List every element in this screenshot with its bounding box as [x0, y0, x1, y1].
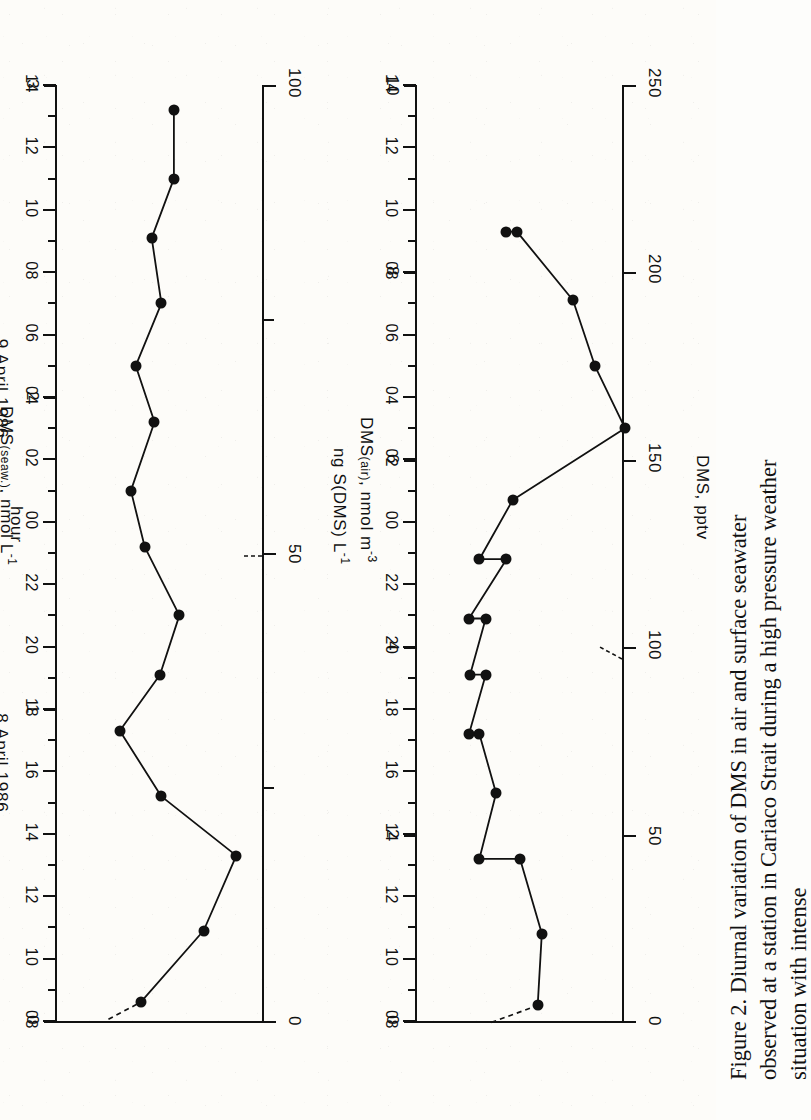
hour-tick-27 — [48, 427, 56, 429]
hour-axis-title: hour — [6, 506, 26, 542]
hour-tick-19 — [408, 677, 416, 679]
hour-tick-37 — [408, 115, 416, 117]
hour-tick-18 — [403, 708, 416, 710]
day-label-1: 9 April 1986 — [0, 339, 11, 438]
hour-label-08-0: 08 — [382, 1010, 400, 1029]
hour-axis-seawater: 081012141618202200020406081012148 April … — [0, 0, 356, 1120]
hour-tick-25 — [48, 490, 56, 492]
figure-number: Figure 2. — [726, 999, 751, 1080]
hour-label-20-6: 20 — [22, 636, 40, 655]
hour-tick-33 — [408, 240, 416, 242]
hour-label-20-6: 20 — [382, 636, 400, 655]
hour-label-08-12: 08 — [382, 261, 400, 280]
hour-tick-14 — [403, 833, 416, 835]
hour-tick-33 — [48, 240, 56, 242]
hour-tick-8 — [43, 1020, 56, 1022]
hour-tick-38 — [43, 84, 56, 86]
hour-label-00-8: 00 — [382, 511, 400, 530]
hour-tick-28 — [43, 396, 56, 398]
hour-tick-29 — [408, 365, 416, 367]
hour-label-10-13: 10 — [22, 199, 40, 218]
hour-tick-35 — [408, 178, 416, 180]
hour-tick-38 — [403, 84, 416, 86]
hour-tick-10 — [43, 958, 56, 960]
hour-tick-25 — [408, 490, 416, 492]
hour-tick-29 — [48, 365, 56, 367]
hour-tick-13 — [408, 864, 416, 866]
hour-label-14-15: 14 — [22, 74, 40, 93]
hour-tick-23 — [48, 552, 56, 554]
hour-label-14-15: 14 — [382, 74, 400, 93]
hour-tick-30 — [43, 334, 56, 336]
hour-tick-9 — [48, 989, 56, 991]
hour-tick-24 — [43, 521, 56, 523]
hour-tick-35 — [48, 178, 56, 180]
hour-axis-air: 08101214161820220002040608101214 — [356, 0, 716, 1120]
hour-label-16-4: 16 — [382, 760, 400, 779]
hour-tick-34 — [403, 209, 416, 211]
hour-tick-26 — [403, 458, 416, 460]
hour-tick-32 — [403, 271, 416, 273]
hour-label-10-1: 10 — [22, 948, 40, 967]
hour-label-18-5: 18 — [22, 698, 40, 717]
figure-caption-container: Figure 2. Diurnal variation of DMS in ai… — [716, 70, 806, 1120]
hour-tick-11 — [48, 926, 56, 928]
hour-tick-36 — [403, 146, 416, 148]
hour-label-22-7: 22 — [382, 573, 400, 592]
hour-tick-16 — [43, 770, 56, 772]
hour-tick-21 — [408, 614, 416, 616]
hour-tick-22 — [43, 583, 56, 585]
hour-tick-15 — [48, 802, 56, 804]
hour-tick-20 — [43, 646, 56, 648]
hour-tick-24 — [403, 521, 416, 523]
hour-label-10-1: 10 — [382, 948, 400, 967]
hour-label-08-0: 08 — [22, 1010, 40, 1029]
hour-tick-18 — [43, 708, 56, 710]
hour-tick-9 — [408, 989, 416, 991]
hour-tick-16 — [403, 770, 416, 772]
hour-tick-34 — [43, 209, 56, 211]
hour-label-02-9: 02 — [382, 448, 400, 467]
hour-tick-11 — [408, 926, 416, 928]
hour-tick-32 — [43, 271, 56, 273]
hour-tick-14 — [43, 833, 56, 835]
day-label-0: 8 April 1986 — [0, 713, 11, 812]
hour-label-10-13: 10 — [382, 199, 400, 218]
figure-caption-text: Diurnal variation of DMS in air and surf… — [726, 460, 811, 1080]
hour-tick-37 — [48, 115, 56, 117]
hour-tick-8 — [403, 1020, 416, 1022]
hour-tick-23 — [408, 552, 416, 554]
hour-label-06-11: 06 — [22, 324, 40, 343]
hour-tick-36 — [43, 146, 56, 148]
hour-label-12-2: 12 — [382, 885, 400, 904]
hour-tick-27 — [408, 427, 416, 429]
hour-label-12-14: 12 — [382, 136, 400, 155]
hour-tick-15 — [408, 802, 416, 804]
hour-tick-10 — [403, 958, 416, 960]
figure-caption: Figure 2. Diurnal variation of DMS in ai… — [724, 440, 811, 1080]
hour-tick-12 — [403, 895, 416, 897]
hour-label-04-10: 04 — [382, 386, 400, 405]
hour-tick-28 — [403, 396, 416, 398]
hour-tick-19 — [48, 677, 56, 679]
hour-label-16-4: 16 — [22, 760, 40, 779]
hour-tick-17 — [408, 739, 416, 741]
hour-label-04-10: 04 — [22, 386, 40, 405]
hour-label-02-9: 02 — [22, 448, 40, 467]
hour-label-12-14: 12 — [22, 136, 40, 155]
hour-label-14-3: 14 — [22, 823, 40, 842]
hour-label-12-2: 12 — [22, 885, 40, 904]
hour-label-18-5: 18 — [382, 698, 400, 717]
hour-label-22-7: 22 — [22, 573, 40, 592]
hour-tick-13 — [48, 864, 56, 866]
hour-tick-31 — [48, 302, 56, 304]
hour-label-06-11: 06 — [382, 324, 400, 343]
hour-tick-17 — [48, 739, 56, 741]
hour-tick-31 — [408, 302, 416, 304]
hour-label-14-3: 14 — [382, 823, 400, 842]
hour-tick-20 — [403, 646, 416, 648]
hour-tick-22 — [403, 583, 416, 585]
hour-tick-12 — [43, 895, 56, 897]
